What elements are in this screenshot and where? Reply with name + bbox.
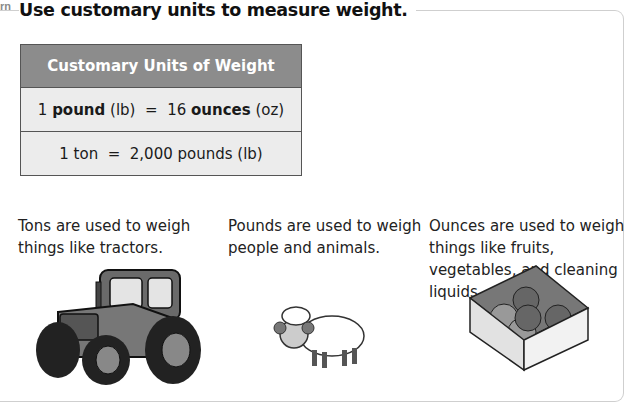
table-title: Customary Units of Weight: [21, 45, 302, 88]
qty: 1: [38, 101, 48, 119]
tractor-illustration: [18, 262, 203, 387]
fruit-box-illustration: [466, 262, 591, 372]
abbr-lb: (lb): [110, 101, 135, 119]
table-row: 1 ton = 2,000 pounds (lb): [21, 132, 302, 176]
unit-pound: pound: [52, 101, 105, 119]
ton-conversion: 1 ton = 2,000 pounds (lb): [21, 132, 302, 176]
sheep-illustration: [272, 304, 372, 374]
pounds-description: Pounds are used to weigh people and anim…: [228, 215, 428, 259]
table-row: 1 pound (lb) = 16 ounces (oz): [21, 88, 302, 132]
tons-description: Tons are used to weigh things like tract…: [18, 215, 218, 259]
lesson-heading: Use customary units to measure weight.: [19, 0, 416, 20]
qty: 16: [167, 101, 186, 119]
units-table: Customary Units of Weight 1 pound (lb) =…: [20, 44, 302, 176]
equals: =: [145, 101, 158, 119]
abbr-oz: (oz): [255, 101, 284, 119]
unit-ounces: ounces: [191, 101, 251, 119]
